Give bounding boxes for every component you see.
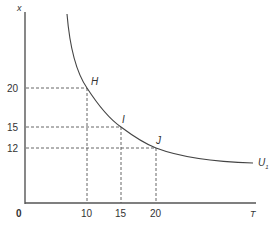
point-label-j: J	[155, 135, 162, 146]
curve-label-u1: U1	[258, 157, 269, 170]
x-tick-10: 10	[81, 208, 93, 219]
y-tick-20: 20	[7, 83, 19, 94]
origin-label: 0	[16, 208, 22, 219]
x-tick-20: 20	[150, 208, 162, 219]
point-label-i: I	[122, 114, 125, 125]
chart: x T 0 20 15 12 10 15 20 H I J U1	[0, 0, 269, 226]
x-axis-label: T	[250, 209, 257, 219]
y-tick-12: 12	[7, 143, 19, 154]
point-label-h: H	[91, 76, 99, 87]
reference-lines	[26, 88, 156, 203]
y-tick-15: 15	[7, 122, 19, 133]
x-tick-15: 15	[115, 208, 127, 219]
y-axis-label: x	[16, 3, 22, 13]
curve-label-subscript: 1	[265, 164, 268, 170]
